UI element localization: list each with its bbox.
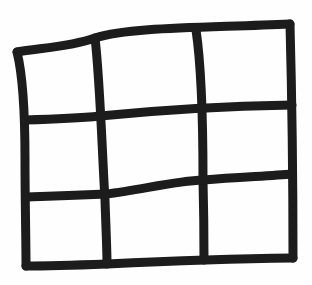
grid-bottom-edge: [26, 258, 293, 266]
grid-left-edge: [17, 52, 26, 266]
grid-vertical-line-1: [95, 38, 107, 264]
grid-right-edge: [290, 24, 293, 258]
grid-top-edge: [17, 24, 290, 52]
grid-vertical-line-2: [196, 30, 204, 260]
warped-grid: [0, 0, 312, 285]
drawing-canvas: [0, 0, 312, 285]
grid-horizontal-line-2: [26, 174, 292, 197]
grid-horizontal-line-1: [25, 105, 292, 120]
